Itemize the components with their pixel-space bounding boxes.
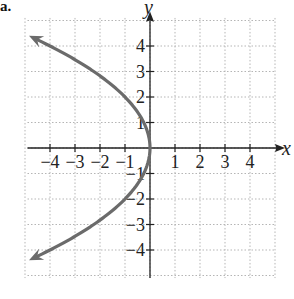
y-tick-label: −4 [126, 240, 145, 260]
y-tick-label: −3 [126, 215, 145, 235]
x-axis-label: x [281, 137, 291, 159]
y-tick-label: 2 [136, 87, 145, 107]
x-tick-label: 4 [246, 152, 255, 172]
y-tick-label: 3 [136, 62, 145, 82]
y-tick-label: −2 [126, 189, 145, 209]
x-tick-label: 2 [196, 152, 205, 172]
axes [28, 12, 286, 278]
x-tick-label: −4 [40, 152, 59, 172]
x-tick-label: −2 [90, 152, 109, 172]
y-axis-label: y [142, 0, 153, 19]
x-tick-label: 1 [171, 152, 180, 172]
x-tick-label: −3 [65, 152, 84, 172]
x-tick-label: 3 [221, 152, 230, 172]
parabola-graph: −4−3−2−11234−4−3−2−11234 x y [0, 0, 294, 299]
y-tick-label: 4 [136, 36, 145, 56]
